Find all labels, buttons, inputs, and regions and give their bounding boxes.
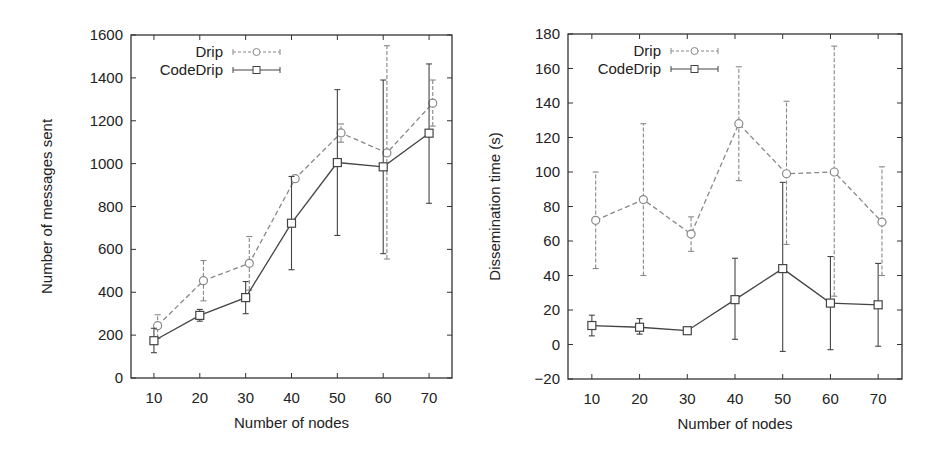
- square-marker: [636, 323, 644, 331]
- x-tick-label: 30: [237, 389, 254, 406]
- legend-label: CodeDrip: [598, 60, 661, 77]
- circle-marker: [735, 120, 743, 128]
- square-marker: [196, 311, 204, 319]
- circle-marker: [383, 149, 391, 157]
- circle-marker: [337, 129, 345, 137]
- legend-circle-icon: [253, 49, 260, 56]
- y-tick-label: 40: [543, 267, 560, 284]
- square-marker: [588, 322, 596, 330]
- legend-label: Drip: [195, 43, 223, 60]
- y-tick-label: 400: [98, 283, 123, 300]
- square-marker: [779, 265, 787, 273]
- square-marker: [826, 299, 834, 307]
- x-tick-label: 20: [191, 389, 208, 406]
- circle-marker: [687, 230, 695, 238]
- y-tick-label: 100: [535, 163, 560, 180]
- circle-marker: [639, 196, 647, 204]
- y-tick-label: 600: [98, 240, 123, 257]
- circle-marker: [199, 277, 207, 285]
- series-codedrip: [588, 182, 882, 351]
- y-tick-label: 0: [552, 336, 560, 353]
- circle-marker: [245, 259, 253, 267]
- circle-marker: [291, 175, 299, 183]
- dissemination-time-chart: −200204060801001201401601801020304050607…: [470, 0, 940, 455]
- square-marker: [874, 301, 882, 309]
- square-marker: [379, 163, 387, 171]
- x-tick-label: 30: [679, 390, 696, 407]
- x-tick-label: 50: [329, 389, 346, 406]
- circle-marker: [783, 170, 791, 178]
- y-tick-label: 60: [543, 232, 560, 249]
- square-marker: [333, 159, 341, 167]
- circle-marker: [429, 99, 437, 107]
- y-tick-label: 0: [115, 369, 123, 386]
- dissemination-time-plot: −200204060801001201401601801020304050607…: [470, 0, 940, 455]
- y-tick-label: 1600: [90, 26, 123, 43]
- x-axis-label: Number of nodes: [677, 415, 792, 432]
- square-marker: [150, 337, 158, 345]
- x-tick-label: 70: [421, 389, 438, 406]
- y-tick-label: 180: [535, 25, 560, 42]
- y-tick-label: 1200: [90, 112, 123, 129]
- x-tick-label: 10: [584, 390, 601, 407]
- y-axis-label: Dissemination time (s): [486, 132, 503, 280]
- square-marker: [683, 327, 691, 335]
- x-axis-label: Number of nodes: [234, 414, 349, 431]
- x-tick-label: 60: [375, 389, 392, 406]
- legend-square-icon: [253, 67, 260, 74]
- x-tick-label: 10: [146, 389, 163, 406]
- circle-marker: [592, 216, 600, 224]
- x-tick-label: 40: [283, 389, 300, 406]
- y-tick-label: −20: [535, 370, 560, 387]
- circle-marker: [830, 168, 838, 176]
- y-tick-label: 200: [98, 326, 123, 343]
- x-tick-label: 40: [727, 390, 744, 407]
- x-tick-label: 20: [631, 390, 648, 407]
- series-line: [158, 103, 433, 326]
- y-tick-label: 1400: [90, 69, 123, 86]
- y-tick-label: 80: [543, 198, 560, 215]
- series-drip: [592, 46, 886, 296]
- circle-marker: [878, 218, 886, 226]
- y-tick-label: 120: [535, 129, 560, 146]
- x-tick-label: 50: [774, 390, 791, 407]
- legend-circle-icon: [691, 48, 698, 55]
- square-marker: [731, 296, 739, 304]
- legend-label: CodeDrip: [160, 61, 223, 78]
- y-tick-label: 800: [98, 198, 123, 215]
- messages-sent-chart: 0200400600800100012001400160010203040506…: [0, 0, 470, 455]
- series-codedrip: [150, 64, 433, 353]
- square-marker: [288, 219, 296, 227]
- y-tick-label: 20: [543, 301, 560, 318]
- messages-sent-plot: 0200400600800100012001400160010203040506…: [0, 0, 470, 455]
- y-tick-label: 1000: [90, 155, 123, 172]
- y-tick-label: 140: [535, 94, 560, 111]
- y-axis-label: Number of messages sent: [38, 118, 55, 294]
- legend-label: Drip: [633, 42, 661, 59]
- x-tick-label: 60: [822, 390, 839, 407]
- series-drip: [154, 46, 437, 339]
- square-marker: [425, 129, 433, 137]
- y-tick-label: 160: [535, 60, 560, 77]
- square-marker: [242, 294, 250, 302]
- x-tick-label: 70: [870, 390, 887, 407]
- legend-square-icon: [691, 66, 698, 73]
